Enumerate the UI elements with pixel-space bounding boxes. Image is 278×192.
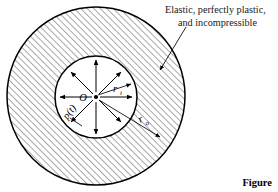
center-point-marker <box>94 95 98 99</box>
hatched-annulus <box>0 0 278 192</box>
callout-label-line1: Elastic, perfectly plastic, <box>165 4 266 15</box>
inner-radius-subscript: i <box>120 89 122 97</box>
figure-caption: Figure <box>242 177 272 188</box>
callout-label-line2: and incompressible <box>178 17 257 28</box>
center-label-O: O <box>79 92 87 103</box>
figure-container: Elastic, perfectly plastic, and incompre… <box>0 0 278 192</box>
cylinder-cross-section-diagram: Elastic, perfectly plastic, and incompre… <box>0 0 278 192</box>
